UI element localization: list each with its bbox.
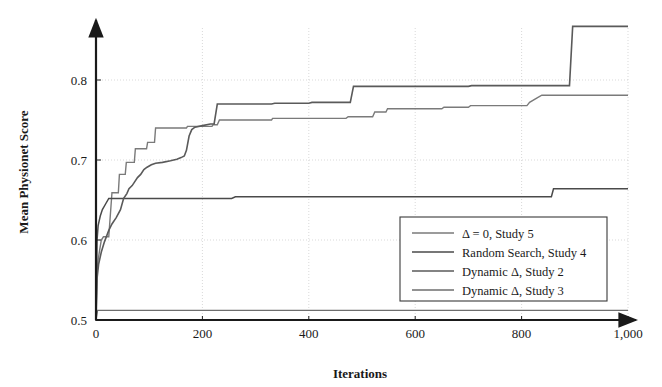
chart-figure: 02004006008001,0000.50.60.70.8 Iteration… — [0, 0, 662, 387]
legend-item-label: Dynamic Δ, Study 2 — [462, 265, 564, 279]
y-tick-label: 0.5 — [71, 313, 87, 328]
x-tick-label: 0 — [93, 326, 100, 341]
legend: Δ = 0, Study 5Random Search, Study 4Dyna… — [400, 217, 607, 301]
x-tick-label: 800 — [512, 326, 532, 341]
x-tick-label: 400 — [299, 326, 319, 341]
x-tick-label: 600 — [405, 326, 425, 341]
legend-item-label: Random Search, Study 4 — [462, 246, 587, 260]
y-tick-label: 0.8 — [71, 73, 87, 88]
legend-item-label: Δ = 0, Study 5 — [462, 227, 534, 241]
x-tick-label: 200 — [193, 326, 213, 341]
x-tick-label: 1,000 — [613, 326, 642, 341]
y-tick-label: 0.6 — [71, 233, 88, 248]
series-line-3 — [96, 310, 628, 320]
y-tick-label: 0.7 — [71, 153, 88, 168]
y-axis-title: Mean Physionet Score — [16, 110, 31, 233]
legend-item-label: Dynamic Δ, Study 3 — [462, 284, 564, 298]
line-chart-svg: 02004006008001,0000.50.60.70.8 Iteration… — [0, 0, 662, 387]
x-axis-title: Iterations — [333, 366, 387, 381]
